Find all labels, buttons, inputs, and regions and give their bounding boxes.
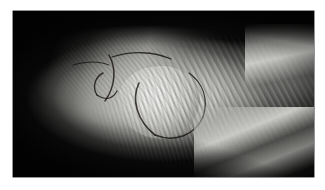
figure-page <box>0 0 325 190</box>
clinical-photograph <box>13 11 314 177</box>
drape-upper-region <box>245 24 314 97</box>
figure-caption <box>13 179 314 190</box>
drape-region <box>194 107 314 177</box>
distal-bulb-region <box>118 66 199 139</box>
